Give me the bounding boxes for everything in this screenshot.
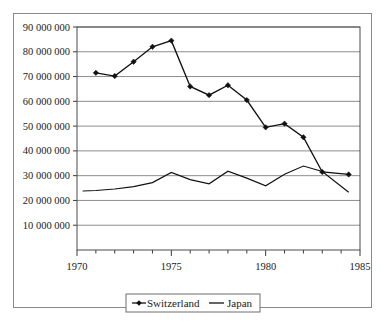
- y-tick-label: 50 000 000: [23, 121, 70, 132]
- plot-area-border: [77, 27, 360, 250]
- y-tick-label: 40 000 000: [23, 145, 70, 156]
- y-axis-labels-group: 10 000 00020 000 00030 000 00040 000 000…: [23, 22, 70, 231]
- axis-ticks-group: [73, 27, 360, 256]
- chart-legend: Switzerland Japan: [126, 294, 260, 312]
- x-axis-labels-group: 1970197519801985: [67, 261, 371, 272]
- data-point-switzerland: [93, 70, 98, 75]
- series-line-japan: [83, 166, 349, 192]
- y-tick-label: 90 000 000: [23, 22, 70, 33]
- gridlines-group: [77, 27, 360, 225]
- data-point-switzerland: [188, 84, 193, 89]
- y-tick-label: 30 000 000: [23, 170, 70, 181]
- x-tick-label: 1980: [255, 261, 276, 272]
- series-markers-switzerland: [93, 38, 351, 177]
- y-tick-label: 70 000 000: [23, 71, 70, 82]
- data-point-switzerland: [206, 92, 211, 97]
- line-chart: 10 000 00020 000 00030 000 00040 000 000…: [0, 0, 386, 324]
- y-tick-label: 20 000 000: [23, 195, 70, 206]
- chart-svg: 10 000 00020 000 00030 000 00040 000 000…: [0, 0, 386, 324]
- x-tick-label: 1970: [67, 261, 88, 272]
- x-tick-label: 1975: [161, 261, 182, 272]
- y-tick-label: 80 000 000: [23, 46, 70, 57]
- data-point-switzerland: [320, 169, 325, 174]
- x-tick-label: 1985: [350, 261, 371, 272]
- data-point-switzerland: [346, 172, 351, 177]
- y-tick-label: 60 000 000: [23, 96, 70, 107]
- legend-label-switzerland: Switzerland: [147, 297, 200, 309]
- legend-label-japan: Japan: [227, 297, 253, 309]
- data-point-switzerland: [169, 38, 174, 43]
- y-tick-label: 10 000 000: [23, 220, 70, 231]
